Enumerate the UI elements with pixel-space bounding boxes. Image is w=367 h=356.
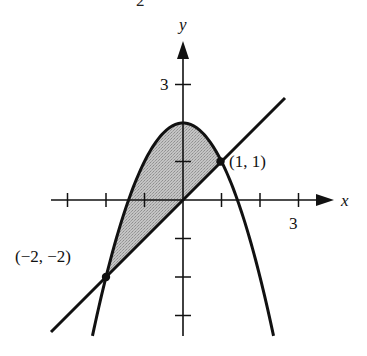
y-axis-label: y (177, 15, 187, 34)
y-axis-arrow-icon (177, 41, 189, 59)
graph-figure: 2 x 3 y 3 (1, 1) (−2, −2) (0, 0, 367, 356)
x-tick-label-3: 3 (289, 214, 298, 233)
intersection-point-1-1 (216, 157, 224, 165)
intersection-point-neg2-neg2 (102, 273, 110, 281)
point-label-neg2-neg2: (−2, −2) (15, 247, 71, 266)
x-axis-arrow-icon (316, 194, 334, 206)
x-axis (51, 193, 334, 207)
point-label-1-1: (1, 1) (229, 152, 266, 171)
cropped-text-fragment: 2 (136, 0, 145, 10)
x-axis-label: x (340, 191, 349, 210)
y-tick-label-3: 3 (160, 75, 169, 94)
